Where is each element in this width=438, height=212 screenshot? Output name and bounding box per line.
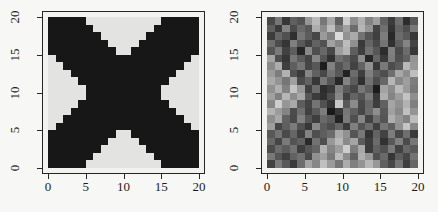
y-axis-tick [256,93,261,94]
heatmap-cell [191,77,199,85]
heatmap-cell [131,108,139,116]
heatmap-cell [365,123,373,131]
heatmap-cell [191,85,199,93]
x-axis-tick-label: 15 [155,179,168,195]
heatmap-cell [395,47,403,55]
heatmap-cell [116,93,124,101]
heatmap-cell [101,115,109,123]
heatmap-cell [282,160,290,168]
heatmap-cell [86,62,94,70]
heatmap-cell [343,108,351,116]
heatmap-cell [139,85,147,93]
heatmap-cell [161,32,169,40]
heatmap-cell [320,62,328,70]
heatmap-cell [124,32,132,40]
heatmap-cell [161,138,169,146]
heatmap-cell [410,47,418,55]
heatmap-cell [267,70,275,78]
heatmap-cell [373,77,381,85]
heatmap-cell [275,85,283,93]
heatmap-cell [78,77,86,85]
heatmap-cell [365,70,373,78]
heatmap-cell [403,160,411,168]
heatmap-cell [282,85,290,93]
heatmap-cell [71,145,79,153]
heatmap-cell [56,40,64,48]
heatmap-cell [154,160,162,168]
heatmap-cell [343,153,351,161]
heatmap-cell [365,85,373,93]
heatmap-cell [108,160,116,168]
heatmap-cell [191,160,199,168]
heatmap-cell [176,47,184,55]
heatmap-cell [48,93,56,101]
heatmap-cell [146,25,154,33]
heatmap-cell [63,47,71,55]
heatmap-cell [335,55,343,63]
heatmap-cell [373,17,381,25]
heatmap-cell [350,145,358,153]
heatmap-cell [320,17,328,25]
heatmap-cell [154,47,162,55]
heatmap-cell [410,17,418,25]
heatmap-cell [365,17,373,25]
heatmap-cell [78,123,86,131]
heatmap-cell [108,100,116,108]
heatmap-cell [403,47,411,55]
heatmap-cell [48,123,56,131]
heatmap-cell [169,160,177,168]
heatmap-cell [176,25,184,33]
heatmap-cell [290,138,298,146]
heatmap-cell [410,145,418,153]
heatmap-cell [395,123,403,131]
heatmap-cell [275,55,283,63]
heatmap-cell [131,32,139,40]
heatmap-cell [71,160,79,168]
plot-frame [261,11,424,174]
heatmap-cell [101,130,109,138]
heatmap-cell [327,17,335,25]
heatmap-cell [373,85,381,93]
heatmap-cell [305,17,313,25]
y-axis-tick-label: 20 [226,11,242,24]
heatmap-cell [335,17,343,25]
heatmap-cell [116,32,124,40]
heatmap-cell [312,85,320,93]
heatmap-cell [335,138,343,146]
heatmap-cell [78,145,86,153]
heatmap-cell [343,160,351,168]
heatmap-cell [305,32,313,40]
heatmap-cell [320,77,328,85]
heatmap-cell [169,17,177,25]
heatmap-cell [86,138,94,146]
heatmap-cell [267,130,275,138]
heatmap-cell [78,115,86,123]
heatmap-cell [176,100,184,108]
heatmap-cell [380,25,388,33]
heatmap-cell [184,85,192,93]
heatmap-cell [169,93,177,101]
heatmap-cell [101,17,109,25]
true-image-panel: 0510152005101520 [0,0,219,212]
heatmap-cell [380,138,388,146]
heatmap-cell [282,138,290,146]
heatmap-cell [48,17,56,25]
heatmap-cell [78,85,86,93]
heatmap-cell [71,55,79,63]
heatmap-cell [124,40,132,48]
heatmap-cell [161,123,169,131]
heatmap-cell [56,130,64,138]
heatmap-cell [161,25,169,33]
heatmap-cell [48,160,56,168]
x-axis-tick-label: 0 [45,179,52,195]
heatmap-cell [93,85,101,93]
heatmap-cell [297,93,305,101]
heatmap-cell [350,17,358,25]
heatmap-cell [169,108,177,116]
y-axis-tick [256,130,261,131]
heatmap-cell [116,115,124,123]
heatmap-cell [267,25,275,33]
heatmap-cell [282,145,290,153]
heatmap-cell [48,85,56,93]
heatmap-cell [373,62,381,70]
